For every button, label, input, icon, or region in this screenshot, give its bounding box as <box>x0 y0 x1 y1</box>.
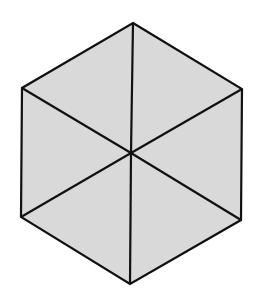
spoke-bottom <box>130 153 131 284</box>
hexagon-diagram <box>0 0 253 301</box>
